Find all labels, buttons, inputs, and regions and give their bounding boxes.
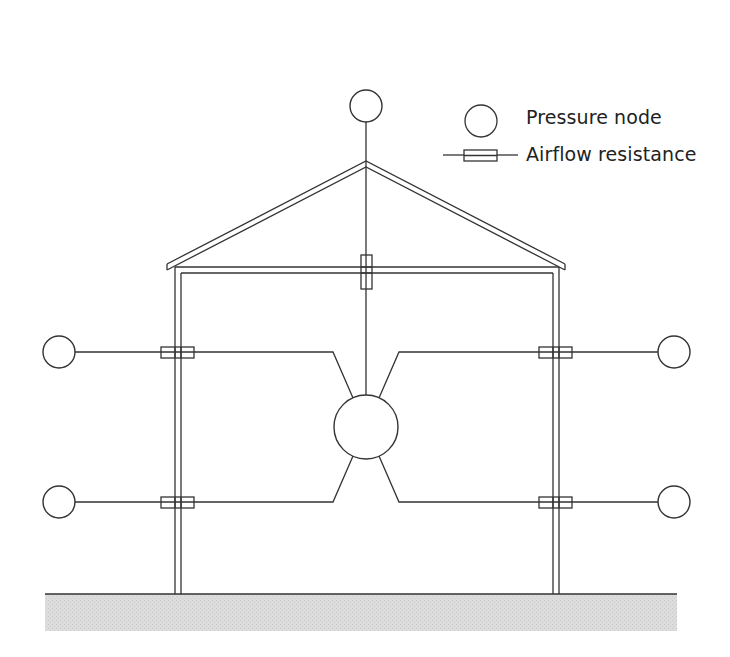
- outside-left-upper-node: [43, 336, 75, 368]
- connection-right-upper: [379, 352, 658, 398]
- outside-right-upper-node: [658, 336, 690, 368]
- legend-airflow-resistance-label: Airflow resistance: [526, 143, 697, 165]
- outside-roof-node: [350, 90, 382, 122]
- outside-left-lower-node: [43, 486, 75, 518]
- ground: [45, 594, 677, 631]
- ground-fill: [45, 594, 677, 631]
- connection-left-upper: [75, 352, 353, 398]
- connection-left-lower: [75, 456, 353, 502]
- connection-right-lower: [379, 456, 658, 502]
- outside-right-lower-node: [658, 486, 690, 518]
- legend-airflow-resistance-icon: [443, 150, 518, 161]
- legend-pressure-node-label: Pressure node: [526, 106, 662, 128]
- airflow-network-diagram: [0, 0, 730, 657]
- right-wall: [553, 267, 559, 594]
- interior-node: [334, 395, 398, 459]
- ceiling: [175, 267, 559, 273]
- left-wall: [175, 267, 181, 594]
- legend: [443, 105, 518, 161]
- legend-pressure-node-icon: [465, 105, 497, 137]
